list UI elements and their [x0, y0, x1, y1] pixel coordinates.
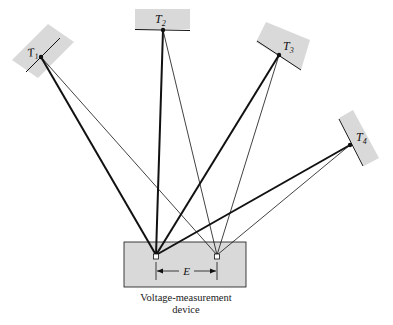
right-receiver — [215, 254, 220, 259]
transmitter-t1-box — [12, 24, 74, 78]
path-t4-right — [217, 145, 350, 255]
device-caption-line1: Voltage-measurement — [140, 292, 231, 303]
path-t4-left — [156, 145, 350, 255]
device-caption-line2: device — [172, 304, 200, 315]
spacing-label: E — [182, 265, 190, 277]
diagram-canvas: E T1 T2 T3 T4 Voltage-measurement device — [0, 0, 393, 325]
path-t3-right — [217, 55, 279, 255]
paths-to-right-receiver — [41, 30, 350, 255]
path-t2-right — [163, 30, 217, 255]
path-t2-left — [156, 30, 163, 255]
transmitter-t1 — [12, 24, 74, 78]
emitter-dot-t4 — [348, 143, 352, 147]
emitter-dot-t2 — [161, 28, 165, 32]
left-receiver — [154, 254, 159, 259]
path-t1-right — [41, 57, 217, 255]
path-t3-left — [156, 55, 279, 255]
emitter-dot-t3 — [277, 53, 281, 57]
paths-to-left-receiver — [41, 30, 350, 255]
path-t1-left — [41, 57, 156, 255]
emitter-dot-t1 — [39, 55, 43, 59]
